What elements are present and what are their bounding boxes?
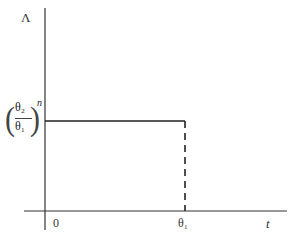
origin-label: 0 bbox=[53, 216, 59, 231]
x-tick-label-theta1: θ₁ bbox=[178, 216, 188, 231]
fraction-denominator: θ₁ bbox=[15, 119, 25, 134]
diagram-canvas bbox=[0, 0, 300, 240]
x-axis-label: t bbox=[266, 216, 270, 232]
y-level-label: ( θ₂ θ₁ ) n bbox=[6, 100, 42, 142]
y-axis-label: Λ bbox=[21, 10, 30, 26]
open-paren: ( bbox=[5, 98, 15, 140]
exponent: n bbox=[37, 97, 42, 108]
fraction-numerator: θ₂ bbox=[15, 100, 25, 115]
